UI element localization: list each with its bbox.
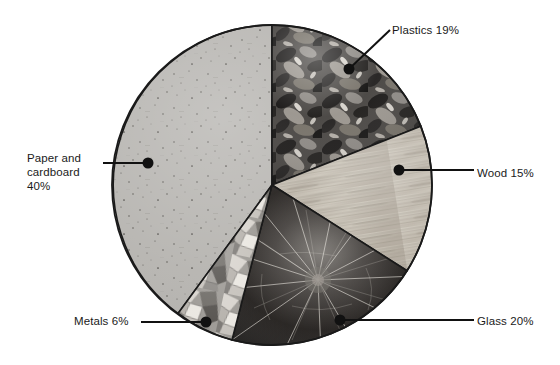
pie-chart: Paper and cardboard 40% Plastics 19% Woo…	[0, 0, 560, 365]
slice-label-glass: Glass 20%	[477, 314, 560, 328]
callout-dot-paper	[143, 158, 154, 169]
pie-slices	[100, 15, 460, 360]
slice-label-plastics: Plastics 19%	[392, 23, 522, 37]
callout-dot-plastics	[344, 64, 355, 75]
slice-label-metals: Metals 6%	[74, 314, 174, 328]
callout-dot-glass	[335, 315, 346, 326]
callout-dot-wood	[394, 165, 405, 176]
slice-label-wood: Wood 15%	[477, 166, 560, 180]
callout-dot-metals	[201, 317, 212, 328]
slice-label-paper-and-cardboard: Paper and cardboard 40%	[27, 151, 117, 193]
